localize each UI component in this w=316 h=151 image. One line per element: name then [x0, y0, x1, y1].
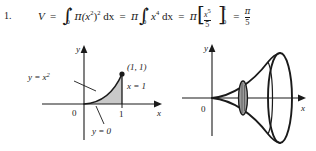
- equals-sign-4: =: [231, 10, 242, 22]
- right-boundary-label: x = 1: [126, 81, 146, 91]
- item-number: 1.: [4, 10, 12, 21]
- pi-symbol-3: π: [190, 10, 197, 23]
- x-tick-label-1: 1: [119, 109, 124, 119]
- numerator-exponent: 5: [208, 7, 211, 14]
- y-axis-arrowhead: [81, 45, 88, 53]
- integral-symbol-2: ∫ 1 0: [138, 7, 151, 27]
- integral-symbol-1: ∫ 1 0: [61, 7, 74, 27]
- x-axis-arrowhead: [298, 95, 306, 102]
- result-fraction: π 5: [245, 7, 251, 27]
- bottom-label-leader: [96, 106, 104, 124]
- x-axis-label: x: [156, 108, 161, 118]
- curve-equation-text: y = x: [27, 72, 47, 82]
- bottom-boundary-label: y = 0: [91, 126, 112, 136]
- y-axis-label: y: [203, 43, 208, 53]
- evaluation-bracket: [ x5 5 ] 1 0: [197, 6, 228, 28]
- figure-region-under-curve: y x 0 1 y = x2 (1, 1) x = 1 y = 0: [26, 36, 174, 149]
- curve-equation-label: y = x2: [27, 71, 51, 83]
- differential-1: dx: [103, 10, 114, 22]
- fraction-numerator: x5: [204, 7, 211, 19]
- equals-sign-3: =: [176, 10, 187, 22]
- equals-sign-1: =: [47, 10, 58, 22]
- integrand-open-1: (x: [82, 10, 91, 22]
- y-axis-label: y: [75, 44, 80, 54]
- x-axis-label: x: [300, 103, 305, 113]
- formula-lhs: V: [38, 10, 45, 22]
- integral-lower-limit-2: 0: [143, 19, 146, 26]
- origin-label: 0: [201, 104, 206, 114]
- integral-upper-limit-1: 1: [68, 6, 71, 13]
- volume-formula: V = ∫ 1 0 π(x2)2 dx = π ∫ 1 0 x4 dx = π …: [38, 6, 250, 28]
- equals-sign-2: =: [117, 10, 128, 22]
- y-axis-arrowhead: [209, 44, 216, 52]
- integral-lower-limit-1: 0: [66, 19, 69, 26]
- integrand-exponent-2: 4: [156, 9, 159, 16]
- point-1-1-marker: [119, 71, 124, 76]
- origin-label: 0: [72, 108, 77, 118]
- formula-row: 1. V = ∫ 1 0 π(x2)2 dx = π ∫ 1 0 x4 dx =…: [0, 6, 316, 34]
- curve-equation-exponent: 2: [47, 71, 51, 78]
- shaded-region: [84, 74, 122, 104]
- result-denominator: 5: [245, 18, 251, 27]
- pi-symbol-1: π: [74, 10, 81, 23]
- representative-disk: [239, 81, 248, 115]
- outer-exponent-1: 2: [97, 9, 100, 16]
- antiderivative-fraction: x5 5: [204, 7, 211, 30]
- problem-container: 1. V = ∫ 1 0 π(x2)2 dx = π ∫ 1 0 x4 dx =…: [0, 0, 316, 151]
- result-numerator: π: [245, 7, 251, 16]
- pi-symbol-2: π: [131, 10, 138, 23]
- x-axis-arrowhead: [154, 101, 162, 108]
- point-1-1-label: (1, 1): [127, 62, 147, 72]
- differential-2: dx: [162, 10, 173, 22]
- integral-upper-limit-2: 1: [145, 6, 148, 13]
- eval-upper-limit: 1: [223, 5, 226, 12]
- eval-lower-limit: 0: [223, 19, 226, 26]
- fraction-denominator: 5: [204, 21, 211, 30]
- figure-solid-of-revolution: y x 0: [176, 36, 316, 149]
- curve-label-leader: [74, 81, 96, 91]
